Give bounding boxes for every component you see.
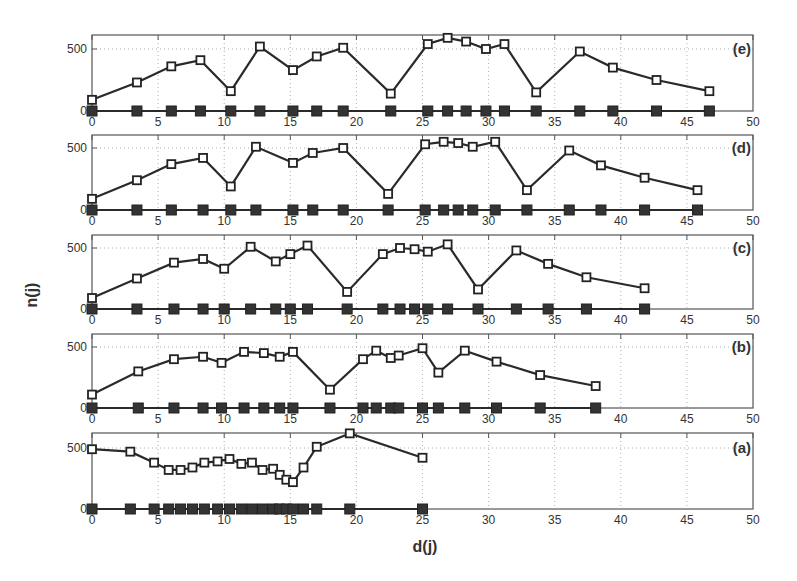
filled-square-marker	[288, 205, 298, 215]
data-line	[92, 348, 596, 394]
open-square-marker	[326, 386, 334, 394]
open-square-marker	[597, 161, 605, 169]
filled-square-marker	[198, 403, 208, 413]
open-square-marker	[167, 160, 175, 168]
filled-square-marker	[169, 403, 179, 413]
open-square-marker	[346, 429, 354, 437]
filled-square-marker	[591, 403, 601, 413]
filled-square-marker	[87, 504, 97, 514]
filled-square-marker	[271, 304, 281, 314]
data-line	[92, 244, 645, 298]
y-tick-label: 0	[80, 502, 87, 516]
filled-square-marker	[453, 205, 463, 215]
y-tick-label: 500	[67, 241, 87, 255]
x-tick-label: 25	[416, 313, 430, 327]
filled-square-marker	[166, 106, 176, 116]
open-square-marker	[693, 186, 701, 194]
filled-square-marker	[443, 304, 453, 314]
x-tick-label: 20	[350, 115, 364, 129]
open-square-marker	[300, 464, 308, 472]
filled-square-marker	[87, 205, 97, 215]
open-square-marker	[582, 273, 590, 281]
filled-square-marker	[132, 205, 142, 215]
open-square-marker	[134, 367, 142, 375]
x-tick-label: 0	[89, 412, 96, 426]
x-tick-label: 25	[416, 115, 430, 129]
panel-label: (a)	[733, 439, 751, 456]
x-tick-label: 5	[155, 214, 162, 228]
open-square-marker	[88, 96, 96, 104]
data-line	[92, 433, 423, 482]
x-tick-label: 40	[614, 313, 628, 327]
filled-square-marker	[125, 504, 135, 514]
x-tick-label: 20	[350, 214, 364, 228]
open-square-marker	[289, 159, 297, 167]
open-square-marker	[523, 186, 531, 194]
open-square-marker	[289, 478, 297, 486]
filled-square-marker	[522, 205, 532, 215]
filled-square-marker	[511, 304, 521, 314]
filled-square-marker	[251, 205, 261, 215]
open-square-marker	[434, 369, 442, 377]
open-square-marker	[474, 285, 482, 293]
filled-square-marker	[338, 106, 348, 116]
filled-square-marker	[312, 504, 322, 514]
x-tick-label: 45	[680, 214, 694, 228]
x-tick-label: 50	[746, 313, 760, 327]
open-square-marker	[309, 149, 317, 157]
open-square-marker	[133, 275, 141, 283]
panel-label: (c)	[733, 239, 751, 256]
x-tick-label: 15	[284, 412, 298, 426]
y-tick-label: 500	[67, 340, 87, 354]
filled-square-marker	[133, 403, 143, 413]
open-square-marker	[170, 259, 178, 267]
open-square-marker	[199, 255, 207, 263]
x-tick-label: 15	[284, 214, 298, 228]
filled-square-marker	[87, 304, 97, 314]
filled-square-marker	[236, 504, 246, 514]
filled-square-marker	[640, 205, 650, 215]
panel-a: 051015202530354045500500(a)	[67, 429, 760, 527]
x-axis-label: d(j)	[413, 538, 438, 555]
open-square-marker	[387, 354, 395, 362]
open-square-marker	[276, 353, 284, 361]
filled-square-marker	[246, 304, 256, 314]
x-tick-label: 30	[482, 313, 496, 327]
panel-label: (d)	[732, 139, 751, 156]
open-square-marker	[133, 176, 141, 184]
open-square-marker	[199, 154, 207, 162]
filled-square-marker	[423, 304, 433, 314]
filled-square-marker	[640, 304, 650, 314]
filled-square-marker	[704, 106, 714, 116]
open-square-marker	[384, 190, 392, 198]
filled-square-marker	[468, 205, 478, 215]
x-tick-label: 10	[218, 513, 232, 527]
open-square-marker	[339, 144, 347, 152]
filled-square-marker	[473, 304, 483, 314]
x-tick-label: 0	[89, 313, 96, 327]
x-tick-label: 50	[746, 214, 760, 228]
filled-square-marker	[481, 106, 491, 116]
filled-square-marker	[87, 403, 97, 413]
filled-square-marker	[581, 304, 591, 314]
x-tick-label: 40	[614, 513, 628, 527]
open-square-marker	[387, 90, 395, 98]
open-square-marker	[259, 466, 267, 474]
x-tick-label: 40	[614, 214, 628, 228]
filled-square-marker	[371, 403, 381, 413]
open-square-marker	[237, 460, 245, 468]
x-tick-label: 30	[482, 115, 496, 129]
filled-square-marker	[255, 106, 265, 116]
filled-square-marker	[410, 304, 420, 314]
open-square-marker	[272, 257, 280, 265]
open-square-marker	[641, 284, 649, 292]
x-tick-label: 45	[680, 313, 694, 327]
x-tick-label: 15	[284, 513, 298, 527]
filled-square-marker	[224, 504, 234, 514]
y-tick-label: 0	[80, 302, 87, 316]
open-square-marker	[454, 139, 462, 147]
open-square-marker	[313, 52, 321, 60]
filled-square-marker	[383, 205, 393, 215]
open-square-marker	[167, 62, 175, 70]
x-tick-label: 20	[350, 412, 364, 426]
